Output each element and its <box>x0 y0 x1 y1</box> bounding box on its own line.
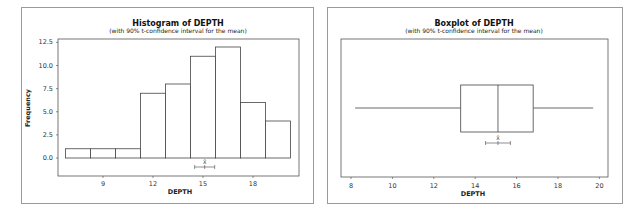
x-tick-label: 10 <box>388 182 396 190</box>
y-tick-label: 10.0 <box>39 62 53 70</box>
y-tick-label: 5.0 <box>43 108 53 116</box>
histogram-y-label: Frequency <box>24 88 32 127</box>
y-tick-label: 7.5 <box>43 85 53 93</box>
x-tick-label: 9 <box>101 180 105 188</box>
boxplot-box <box>355 85 593 132</box>
histogram-x-axis: 9121518 <box>101 176 257 188</box>
boxplot-chart: Boxplot of DEPTH (with 90% t-confidence … <box>341 19 608 198</box>
histogram-bar <box>166 84 191 158</box>
x-tick-label: 16 <box>512 182 520 190</box>
x-tick-label: 12 <box>149 180 157 188</box>
histogram-bar <box>216 47 241 158</box>
histogram-chart: Histogram of DEPTH (with 90% t-confidenc… <box>24 19 299 196</box>
ci-mean-label: X̄ <box>496 135 500 141</box>
y-tick-label: 2.5 <box>43 131 53 139</box>
histogram-bar <box>191 56 216 158</box>
histogram-subtitle: (with 90% t-confidence interval for the … <box>109 27 247 34</box>
histogram-bars <box>66 47 291 158</box>
histogram-bar <box>141 93 166 158</box>
histogram-confidence-interval: X̄ <box>195 159 215 169</box>
x-tick-label: 18 <box>249 180 257 188</box>
x-tick-label: 12 <box>430 182 438 190</box>
boxplot-subtitle: (with 90% t-confidence interval for the … <box>405 27 543 34</box>
boxplot-confidence-interval: X̄ <box>486 135 511 145</box>
x-tick-label: 15 <box>199 180 207 188</box>
x-tick-label: 8 <box>349 182 353 190</box>
histogram-bar <box>116 149 141 158</box>
interquartile-box <box>461 85 533 132</box>
histogram-bar <box>66 149 91 158</box>
x-tick-label: 20 <box>595 182 603 190</box>
y-tick-label: 12.5 <box>39 38 53 46</box>
y-tick-label: 0.0 <box>43 154 53 162</box>
x-tick-label: 14 <box>471 182 479 190</box>
histogram-x-label: DEPTH <box>168 188 192 196</box>
x-tick-label: 18 <box>554 182 562 190</box>
histogram-bar <box>241 103 266 159</box>
charts-canvas: Histogram of DEPTH (with 90% t-confidenc… <box>0 0 640 213</box>
ci-mean-label: X̄ <box>203 159 207 165</box>
boxplot-x-label: DEPTH <box>461 190 485 198</box>
histogram-bar <box>91 149 116 158</box>
histogram-bar <box>266 121 291 158</box>
boxplot-x-axis: 8101214161820 <box>349 177 604 190</box>
histogram-y-axis: 0.02.55.07.510.012.5 <box>39 38 58 162</box>
